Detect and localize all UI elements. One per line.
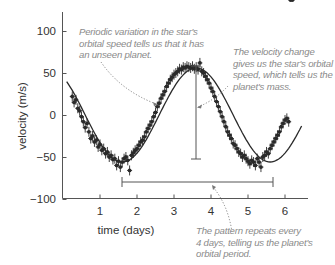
y-tick-label-0: 0 bbox=[50, 109, 56, 121]
y-tick-label-minus-100: −100 bbox=[30, 193, 56, 205]
x-tick-label-5: 5 bbox=[245, 205, 251, 217]
annotation-mass-line-3: speed, which tells us the bbox=[233, 69, 333, 81]
leader-arrowheads bbox=[153, 102, 216, 190]
y-tick-labels: 100 50 0 −50 −100 bbox=[30, 25, 56, 205]
annotation-period: The pattern repeats every 4 days, tellin… bbox=[196, 225, 313, 260]
arrowhead-mass-icon bbox=[197, 105, 202, 109]
annotation-detection-line-2: orbital speed tells us that it has bbox=[79, 38, 204, 50]
amplitude-measure bbox=[191, 66, 201, 159]
y-tick-label-50: 50 bbox=[43, 67, 56, 79]
annotation-mass-line-1: The velocity change bbox=[233, 46, 333, 58]
annotation-period-line-2: 4 days, telling us the planet's bbox=[196, 237, 313, 249]
x-tick-label-4: 4 bbox=[208, 205, 215, 217]
y-tick-label-minus-50: −50 bbox=[36, 151, 56, 163]
arrowhead-period-icon bbox=[212, 185, 216, 190]
annotation-detection: Periodic variation in the star's orbital… bbox=[79, 26, 204, 61]
x-tick-label-2: 2 bbox=[134, 205, 140, 217]
annotation-period-line-1: The pattern repeats every bbox=[196, 225, 313, 237]
x-tick-label-6: 6 bbox=[282, 205, 288, 217]
annotation-detection-line-3: an unseen planet. bbox=[79, 49, 204, 61]
data-point bbox=[127, 165, 132, 175]
annotation-mass-line-4: planet's mass. bbox=[233, 81, 333, 93]
x-tick-labels: 1 2 3 4 5 6 bbox=[97, 205, 288, 217]
x-tick-label-3: 3 bbox=[171, 205, 177, 217]
y-tick-label-100: 100 bbox=[37, 25, 56, 37]
annotation-mass: The velocity change gives us the star's … bbox=[233, 46, 333, 92]
annotation-mass-line-2: gives us the star's orbital bbox=[233, 58, 333, 70]
annotation-period-line-3: orbital period. bbox=[196, 248, 313, 260]
x-tick-label-1: 1 bbox=[97, 205, 103, 217]
leader-detection bbox=[101, 62, 156, 104]
y-ticks bbox=[63, 32, 67, 200]
period-measure bbox=[122, 177, 273, 187]
x-ticks bbox=[100, 195, 285, 199]
x-axis-title: time (days) bbox=[98, 224, 155, 236]
y-axis-title: velocity (m/s) bbox=[16, 82, 28, 150]
annotation-detection-line-1: Periodic variation in the star's bbox=[79, 26, 204, 38]
